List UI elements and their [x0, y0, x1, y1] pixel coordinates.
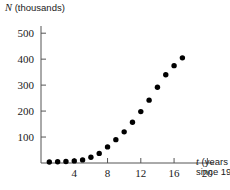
data-point — [171, 63, 176, 68]
data-point — [105, 144, 110, 149]
data-point — [121, 129, 126, 134]
data-point — [113, 137, 118, 142]
x-tick-label: 12 — [131, 167, 151, 179]
y-tick-label: 400 — [6, 53, 34, 65]
data-point — [88, 155, 93, 160]
y-axis-title: N (thousands) — [5, 3, 65, 13]
data-points-group — [47, 55, 185, 165]
y-axis-unit: (thousands) — [12, 2, 65, 13]
data-point — [80, 157, 85, 162]
y-tick-label: 200 — [6, 105, 34, 117]
data-point — [72, 158, 77, 163]
x-tick-label: 4 — [64, 167, 84, 179]
data-point — [138, 109, 143, 114]
data-point — [155, 84, 160, 89]
x-tick-label: 8 — [98, 167, 118, 179]
tick-marks-group — [41, 33, 207, 163]
data-point — [63, 159, 68, 164]
data-point — [47, 159, 52, 164]
data-point — [97, 151, 102, 156]
data-point — [146, 97, 151, 102]
data-point — [130, 120, 135, 125]
data-point — [163, 72, 168, 77]
y-tick-label: 100 — [6, 131, 34, 143]
y-tick-label: 500 — [6, 27, 34, 39]
data-point — [180, 55, 185, 60]
x-tick-label: 16 — [164, 167, 184, 179]
y-axis-variable: N — [5, 2, 12, 13]
y-tick-label: 300 — [6, 79, 34, 91]
scatter-plot-figure: N (thousands) t (years since 1980) 10020… — [0, 0, 230, 190]
x-tick-label: 20 — [197, 167, 217, 179]
axes-group — [41, 26, 214, 163]
data-point — [55, 159, 60, 164]
